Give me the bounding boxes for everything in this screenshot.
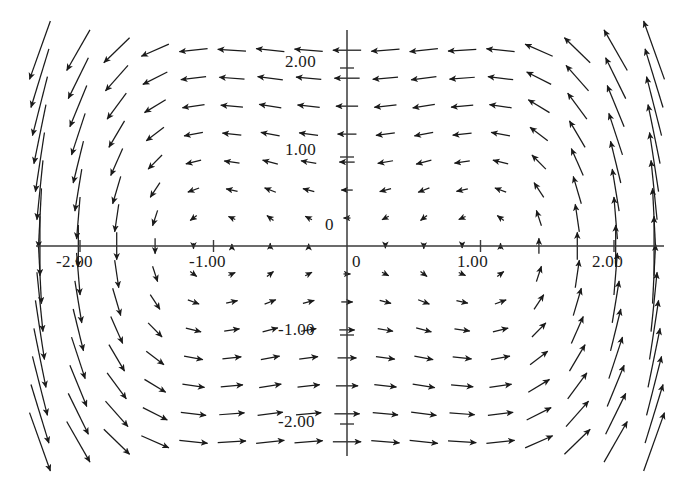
field-arrow <box>573 288 581 315</box>
field-arrow <box>382 216 389 220</box>
field-arrow <box>459 272 466 275</box>
field-arrow <box>611 309 621 351</box>
field-arrow <box>303 300 314 303</box>
field-arrow <box>644 21 665 79</box>
field-arrow <box>179 440 207 443</box>
field-arrow <box>113 288 121 315</box>
field-arrow <box>571 316 583 343</box>
field-arrow <box>104 38 130 63</box>
field-arrow <box>190 216 197 221</box>
field-arrow <box>298 105 320 107</box>
field-arrow <box>259 384 281 387</box>
field-arrow <box>645 385 663 444</box>
field-arrow <box>182 384 204 387</box>
field-arrow <box>30 21 51 79</box>
field-arrow <box>305 216 312 220</box>
field-arrow <box>528 379 549 392</box>
field-arrow <box>527 408 552 420</box>
field-arrow <box>459 217 466 220</box>
field-arrow <box>532 155 546 169</box>
field-arrow <box>181 77 206 80</box>
field-arrow <box>530 351 548 365</box>
field-arrow <box>222 357 241 359</box>
field-arrow <box>569 121 585 147</box>
field-arrow <box>378 161 393 164</box>
field-arrow <box>218 49 246 51</box>
field-arrow <box>188 188 199 192</box>
field-arrow <box>410 49 438 52</box>
field-arrow <box>491 132 510 135</box>
field-arrow <box>371 441 399 443</box>
field-arrow <box>31 385 49 444</box>
field-arrow <box>146 351 164 365</box>
field-arrow <box>604 422 627 463</box>
field-arrow <box>221 385 243 387</box>
field-arrow <box>299 133 318 135</box>
field-arrow <box>179 49 207 52</box>
vector-field-plot: -2.00-1.0001.002.002.001.000-1.00-2.00 <box>0 0 698 484</box>
field-arrow <box>226 189 237 192</box>
field-arrow <box>113 176 121 203</box>
field-arrow <box>30 413 51 471</box>
vector-field-canvas <box>0 0 698 484</box>
field-arrow <box>148 323 162 337</box>
field-arrow <box>411 412 436 415</box>
field-arrow <box>222 133 241 135</box>
field-arrow <box>186 160 201 164</box>
field-arrow <box>413 384 435 387</box>
field-arrow <box>525 436 553 448</box>
field-arrow <box>374 385 396 387</box>
field-arrow <box>261 132 280 136</box>
field-arrow <box>141 44 169 56</box>
field-arrow <box>143 72 168 84</box>
field-arrow <box>109 121 125 147</box>
field-arrow <box>144 379 165 392</box>
field-arrow <box>376 133 395 135</box>
field-arrow <box>378 329 393 332</box>
field-arrow <box>265 300 276 304</box>
x-tick-label: 1.00 <box>457 252 488 272</box>
field-arrow <box>294 49 322 51</box>
field-arrow <box>218 441 246 443</box>
field-arrow <box>564 429 590 454</box>
field-arrow <box>109 345 125 371</box>
field-arrow <box>414 132 433 136</box>
field-arrow <box>493 160 508 164</box>
field-arrow <box>182 105 204 108</box>
field-arrow <box>256 49 284 52</box>
field-arrow <box>527 72 552 84</box>
field-arrow <box>607 86 624 127</box>
field-arrow <box>536 210 541 225</box>
field-arrow <box>115 204 119 232</box>
field-arrow <box>448 441 476 443</box>
field-arrow <box>184 356 203 359</box>
field-arrow <box>416 328 431 332</box>
x-tick-label: -2.00 <box>56 252 93 272</box>
field-arrow <box>416 160 431 164</box>
field-arrow <box>569 345 585 371</box>
field-arrow <box>604 30 627 71</box>
field-arrow <box>489 105 511 108</box>
field-arrow <box>451 105 473 107</box>
y-tick-label: -2.00 <box>278 412 315 432</box>
field-arrow <box>70 86 87 127</box>
field-arrow <box>143 408 168 420</box>
field-arrow <box>146 127 164 141</box>
field-arrow <box>373 77 398 79</box>
field-arrow <box>534 295 544 310</box>
field-arrow <box>489 384 511 387</box>
field-arrow <box>301 161 316 164</box>
field-arrow <box>105 401 128 426</box>
field-arrow <box>493 328 508 332</box>
field-arrow <box>296 77 321 79</box>
y-tick-label: 1.00 <box>285 140 316 160</box>
y-tick-label: -1.00 <box>278 320 315 340</box>
field-arrow <box>73 141 83 183</box>
field-arrow <box>497 272 504 277</box>
field-arrow <box>190 272 197 277</box>
field-arrow <box>111 149 123 176</box>
field-arrow <box>144 100 165 113</box>
field-arrow <box>299 357 318 359</box>
field-arrow <box>373 413 398 415</box>
field-arrow <box>150 183 160 198</box>
